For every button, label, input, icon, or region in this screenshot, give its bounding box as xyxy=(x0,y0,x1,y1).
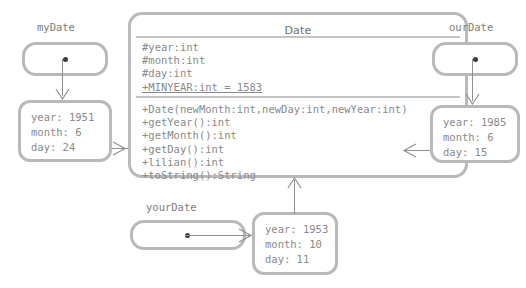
class-title-label: Date xyxy=(284,24,311,37)
object-attribute-box-mydate[interactable]: year: 1951 month: 6 day: 24 xyxy=(18,100,112,162)
object-label-yourdate: yourDate xyxy=(146,201,197,213)
object-attribute-item: day: 11 xyxy=(265,252,335,267)
object-attribute-item: month: 10 xyxy=(265,237,335,252)
object-attribute-item: month: 6 xyxy=(31,125,109,140)
object-attribute-item: day: 24 xyxy=(31,140,109,155)
reference-dot-icon xyxy=(473,57,478,62)
object-label-ourdate: ourDate xyxy=(449,21,493,33)
object-reference-box-mydate[interactable] xyxy=(22,42,108,76)
class-attribute-item-static: +MINYEAR:int = 1583 xyxy=(142,81,460,94)
class-method-item: +getMonth():int xyxy=(142,129,460,142)
object-label-mydate: myDate xyxy=(37,21,75,33)
arrowhead-right-icon-mydate xyxy=(112,141,128,156)
class-methods-compartment: +Date(newMonth:int,newDay:int,newYear:in… xyxy=(136,100,460,169)
object-attribute-item: year: 1985 xyxy=(443,115,517,130)
class-attribute-item: #month:int xyxy=(142,54,460,67)
object-attribute-item: year: 1951 xyxy=(31,110,109,125)
class-attributes-compartment: #year:int #month:int #day:int +MINYEAR:i… xyxy=(136,38,460,98)
object-reference-box-ourdate[interactable] xyxy=(432,42,518,76)
object-attribute-item: day: 15 xyxy=(443,145,517,160)
arrowhead-left-icon-ourdate xyxy=(402,143,418,158)
object-attribute-item: year: 1953 xyxy=(265,222,335,237)
object-attribute-box-ourdate[interactable]: year: 1985 month: 6 day: 15 xyxy=(430,105,520,163)
uml-diagram-canvas: Date #year:int #month:int #day:int +MINY… xyxy=(0,0,526,288)
arrowhead-up-icon-yourdate xyxy=(287,176,303,190)
class-method-item: +getYear():int xyxy=(142,116,460,129)
object-attribute-item: month: 6 xyxy=(443,130,517,145)
class-method-item: +Date(newMonth:int,newDay:int,newYear:in… xyxy=(142,103,460,116)
reference-dot-icon xyxy=(63,57,68,62)
class-attribute-item: #year:int xyxy=(142,41,460,54)
class-attribute-item: #day:int xyxy=(142,67,460,80)
class-title-bar: Date xyxy=(136,19,460,38)
object-attribute-box-yourdate[interactable]: year: 1953 month: 10 day: 11 xyxy=(252,212,338,275)
